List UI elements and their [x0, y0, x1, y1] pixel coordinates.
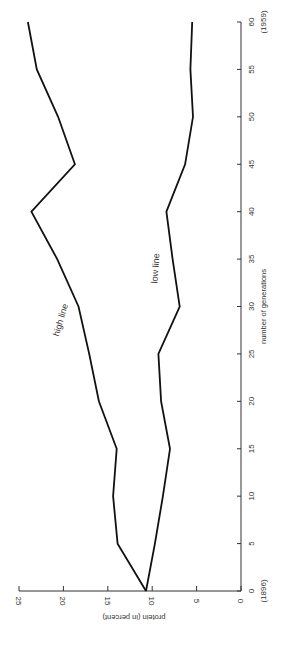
- y-tick-label: 20: [58, 597, 67, 606]
- x-tick-label: 0: [247, 588, 256, 593]
- year-annotation: (1959): [259, 10, 268, 33]
- x-tick-label: 50: [247, 112, 256, 121]
- x-tick-label: 10: [247, 491, 256, 500]
- y-tick-label: 25: [14, 597, 23, 606]
- x-tick-label: 40: [247, 207, 256, 216]
- x-tick-label: 25: [247, 349, 256, 358]
- y-tick-label: 10: [147, 597, 156, 606]
- x-tick-label: 60: [247, 17, 256, 26]
- series-labels: high linelow line: [51, 253, 161, 337]
- series-line-high-line: [28, 22, 146, 591]
- x-tick-label: 15: [247, 444, 256, 453]
- x-axis-title: number of generations: [259, 269, 268, 344]
- series-label-low-line: low line: [149, 253, 161, 284]
- series-group: [28, 22, 193, 591]
- y-ticks: 0510152025: [14, 586, 245, 606]
- protein-generations-chart: 051015202530354045505560 0510152025 (189…: [0, 0, 284, 655]
- y-tick-label: 5: [192, 599, 201, 604]
- x-tick-label: 55: [247, 64, 256, 73]
- y-tick-label: 0: [236, 599, 245, 604]
- x-ticks: 051015202530354045505560: [237, 17, 256, 593]
- x-tick-label: 30: [247, 302, 256, 311]
- x-tick-label: 45: [247, 159, 256, 168]
- y-axis-title: protein (in percent): [102, 613, 165, 622]
- x-tick-label: 20: [247, 396, 256, 405]
- year-annotation: (1896): [259, 579, 268, 602]
- x-tick-label: 5: [247, 541, 256, 546]
- y-tick-label: 15: [103, 597, 112, 606]
- x-tick-label: 35: [247, 254, 256, 263]
- series-line-low-line: [146, 22, 193, 591]
- series-label-high-line: high line: [51, 302, 70, 337]
